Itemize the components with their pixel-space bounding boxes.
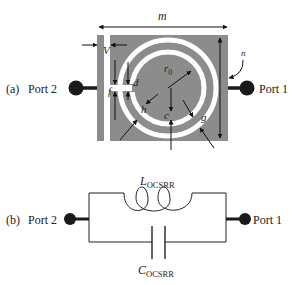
port2-label-b: Port 2 <box>28 213 57 227</box>
port1-label-a: Port 1 <box>259 82 288 96</box>
dimension-d-label: d <box>133 76 139 88</box>
dimension-v-label: V <box>103 44 111 56</box>
dimension-n-pointer <box>229 60 243 78</box>
port2-terminal-b[interactable] <box>64 213 76 225</box>
port1-terminal[interactable] <box>240 81 255 96</box>
panel-b <box>74 187 241 259</box>
dimension-n-label: n <box>241 48 246 58</box>
panel-b-label: (b) <box>6 213 20 227</box>
dimension-h-label: h <box>141 103 147 115</box>
dimension-g-label: g <box>201 111 207 123</box>
dimension-m-label: m <box>158 9 167 23</box>
inductor-coil <box>124 187 192 211</box>
panel-a-label: (a) <box>6 82 19 96</box>
dimension-c-label: c <box>164 109 169 121</box>
port2-terminal[interactable] <box>69 81 84 96</box>
inductor-label: LOCSRR <box>139 174 175 190</box>
port1-terminal-b[interactable] <box>239 213 251 225</box>
port2-label-a: Port 2 <box>28 82 57 96</box>
ocsrr-diagram: m (a) Port 2 Port 1 n V f <box>0 0 301 285</box>
capacitor-label: COCSRR <box>138 263 174 279</box>
port1-label-b: Port 1 <box>253 213 282 227</box>
panel-a: m (a) Port 2 Port 1 n V f <box>6 9 288 150</box>
